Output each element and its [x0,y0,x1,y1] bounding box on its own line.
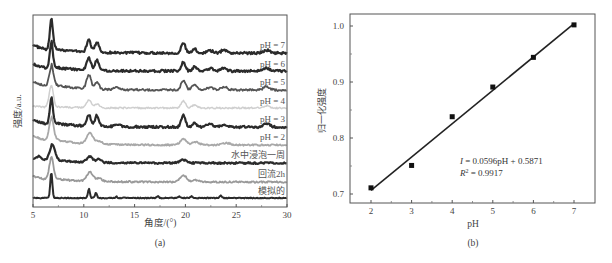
x-tick-label: 5 [31,210,36,220]
x-tick-label: 15 [130,210,140,220]
x-tick-label: 5 [491,206,496,216]
xrd-trace [33,174,287,198]
x-tick-label: 25 [232,210,242,220]
xrd-traces [33,19,287,199]
xrd-y-axis-label: 强度/a.u. [12,94,23,128]
xrd-trace [33,19,287,54]
panel-label-b: (b) [467,238,478,249]
x-tick-label: 2 [369,206,374,216]
x-tick-label: 7 [572,206,577,216]
ph-x-axis-label: pH [467,219,479,229]
y-tick-label: 0.9 [333,77,345,87]
series-label: 回流2h [258,168,286,179]
xrd-trace [33,97,287,128]
ph-x-axis: 234567 [369,200,577,216]
figure: pH = 7pH = 6pH = 5pH = 4pH = 3pH = 2水中浸泡… [0,0,612,263]
y-tick-label: 0.7 [333,189,345,199]
x-tick-label: 4 [450,206,455,216]
series-label: pH = 5 [260,77,286,87]
fit-equation: I = 0.0596pH + 0.5871 [459,156,543,166]
panel-label-a: (a) [155,238,166,249]
data-point [369,185,374,190]
series-label: 模拟的 [258,185,285,196]
y-tick-label: 0.8 [333,133,345,143]
x-tick-label: 30 [283,210,293,220]
series-label: 水中浸泡一周 [231,149,285,160]
series-label: pH = 4 [260,96,286,106]
data-point [450,114,455,119]
series-label: pH = 6 [260,59,286,69]
series-label: pH = 7 [260,40,286,50]
x-tick-label: 20 [181,210,191,220]
xrd-chart: pH = 7pH = 6pH = 5pH = 4pH = 3pH = 2水中浸泡… [12,15,292,249]
r-squared: R2 = 0.9917 [459,168,503,179]
x-tick-label: 6 [531,206,536,216]
x-tick-label: 3 [409,206,414,216]
xrd-plot-frame [33,15,287,207]
x-tick-label: 10 [79,210,89,220]
xrd-x-axis-label: 角度/(°) [144,217,177,229]
y-tick-label: 1.0 [333,21,345,31]
data-point [409,163,414,168]
xrd-trace [33,116,287,145]
series-label: pH = 2 [260,132,285,142]
intensity-ph-chart: 0.70.80.91.0 234567 I = 0.0596pH + 0.587… [316,14,595,249]
data-point [531,55,536,60]
data-point [572,22,577,27]
data-point [490,85,495,90]
xrd-series-labels: pH = 7pH = 6pH = 5pH = 4pH = 3pH = 2水中浸泡… [231,40,286,196]
xrd-trace [33,41,287,72]
series-label: pH = 3 [260,114,286,124]
ph-y-axis-label: 归一化强度 [316,88,327,133]
